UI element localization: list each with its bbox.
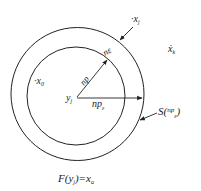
- label-np: np: [78, 74, 92, 88]
- label-yj: yj: [65, 92, 72, 104]
- label-n-epsilon: nε: [101, 45, 113, 58]
- xj-pointer-arrow: [120, 27, 133, 40]
- label-np-epsilon: npε: [92, 98, 105, 111]
- label-xj: ·xj: [131, 13, 140, 25]
- s-pointer-arrow: [140, 113, 157, 120]
- label-xk: ẋk: [167, 43, 175, 55]
- label-x0: ·x0: [34, 75, 44, 87]
- sphere-neighborhood-diagram: ·xj ẋk ·x0 yj np nε npε S(npε) F(yj)=xa: [0, 0, 201, 191]
- inner-circle: [27, 47, 125, 145]
- label-s-np-epsilon: S(npε): [158, 105, 181, 119]
- caption-mapping: F(yj)=xa: [57, 172, 94, 185]
